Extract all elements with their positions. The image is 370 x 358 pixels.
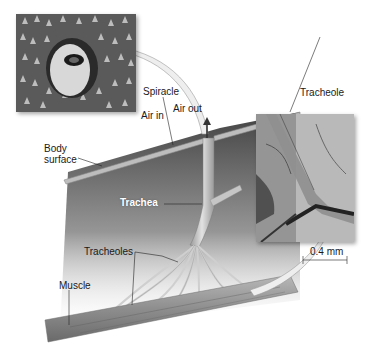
label-spiracle: Spiracle <box>143 86 179 97</box>
spiracle-micrograph-image <box>16 14 136 112</box>
label-body-surface-line1: Body <box>44 143 67 154</box>
tracheole-micrograph-image <box>256 114 354 242</box>
label-trachea: Trachea <box>120 197 158 208</box>
label-body-surface-line2: surface <box>44 154 77 165</box>
label-muscle: Muscle <box>59 280 91 291</box>
label-scale-bar: 0.4 mm <box>310 246 343 257</box>
tracheal-system-diagram: Spiracle Air in Air out Body surface Tra… <box>0 0 370 358</box>
tracheole-micrograph <box>256 114 354 242</box>
label-air-in: Air in <box>141 110 164 121</box>
label-tracheole: Tracheole <box>300 87 344 98</box>
label-air-out: Air out <box>173 103 202 114</box>
spiracle-micrograph <box>16 14 136 112</box>
label-tracheoles: Tracheoles <box>84 246 133 257</box>
